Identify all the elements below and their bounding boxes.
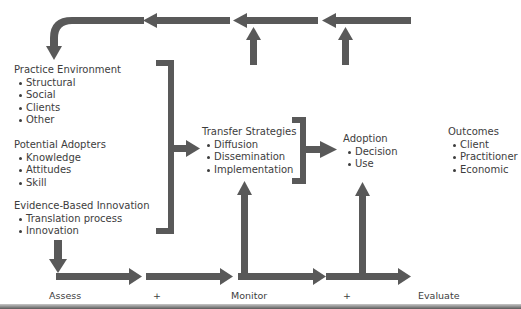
list-item: Implementation — [206, 164, 296, 177]
bracket-to-adoption-arrow-icon — [306, 141, 337, 158]
list-item: Attitudes — [18, 164, 106, 177]
potential-adopters-title: Potential Adopters — [14, 139, 106, 152]
phase-monitor-label: Monitor — [231, 290, 267, 301]
bottom-divider — [0, 304, 521, 309]
list-item: Social — [18, 89, 121, 102]
practice-environment-list: Structural Social Clients Other — [14, 77, 121, 127]
up-arrow-to-adoption-icon — [355, 182, 370, 277]
list-item: Innovation — [18, 225, 150, 238]
practice-environment-title: Practice Environment — [14, 64, 121, 77]
transfer-strategies-block: Transfer Strategies Diffusion Disseminat… — [202, 126, 296, 176]
evidence-based-innovation-list: Translation process Innovation — [14, 213, 150, 238]
list-item: Dissemination — [206, 151, 296, 164]
evidence-based-innovation-title: Evidence-Based Innovation — [14, 200, 150, 213]
left-bracket-icon — [156, 60, 174, 234]
bracket-to-transfer-arrow-icon — [174, 140, 200, 157]
bottom-arrow-3-icon — [238, 268, 326, 285]
evidence-based-innovation-block: Evidence-Based Innovation Translation pr… — [14, 200, 150, 238]
adoption-list: Decision Use — [343, 146, 398, 171]
list-item: Skill — [18, 177, 106, 190]
list-item: Clients — [18, 102, 121, 115]
bottom-arrow-4-icon — [326, 268, 411, 285]
bottom-arrow-2-icon — [146, 268, 233, 285]
up-arrow-evaluate-top-icon — [338, 27, 353, 65]
top-arrow-3-curved-icon — [143, 13, 230, 28]
list-item: Decision — [347, 146, 398, 159]
outcomes-title: Outcomes — [448, 126, 518, 139]
top-arrow-2-icon — [233, 13, 318, 28]
adoption-block: Adoption Decision Use — [343, 133, 398, 171]
curved-down-arrow-icon — [46, 17, 144, 60]
down-arrow-assess-icon — [49, 240, 67, 273]
list-item: Practitioner — [452, 151, 518, 164]
potential-adopters-list: Knowledge Attitudes Skill — [14, 152, 106, 190]
up-arrow-to-transfer-icon — [237, 181, 252, 277]
transfer-strategies-list: Diffusion Dissemination Implementation — [202, 139, 296, 177]
outcomes-block: Outcomes Client Practitioner Economic — [448, 126, 518, 176]
list-item: Client — [452, 139, 518, 152]
phase-plus-1-label: + — [153, 290, 161, 301]
outcomes-list: Client Practitioner Economic — [448, 139, 518, 177]
list-item: Knowledge — [18, 152, 106, 165]
phase-assess-label: Assess — [49, 290, 81, 301]
potential-adopters-block: Potential Adopters Knowledge Attitudes S… — [14, 139, 106, 189]
phase-evaluate-label: Evaluate — [418, 290, 460, 301]
diagram-canvas: Practice Environment Structural Social C… — [0, 0, 521, 309]
list-item: Use — [347, 158, 398, 171]
list-item: Other — [18, 114, 121, 127]
adoption-title: Adoption — [343, 133, 398, 146]
list-item: Diffusion — [206, 139, 296, 152]
practice-environment-block: Practice Environment Structural Social C… — [14, 64, 121, 127]
transfer-strategies-title: Transfer Strategies — [202, 126, 296, 139]
list-item: Structural — [18, 77, 121, 90]
top-arrow-1-icon — [322, 13, 411, 28]
up-arrow-monitor-top-icon — [246, 27, 261, 65]
list-item: Economic — [452, 164, 518, 177]
list-item: Translation process — [18, 213, 150, 226]
bottom-arrow-1-icon — [56, 268, 142, 285]
phase-plus-2-label: + — [343, 290, 351, 301]
